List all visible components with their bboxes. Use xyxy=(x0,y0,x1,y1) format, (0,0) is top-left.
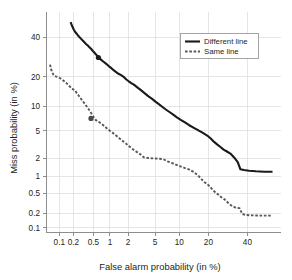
x-axis-title: False alarm probability (in %) xyxy=(99,261,220,272)
y-tick-label: 0.5 xyxy=(29,189,41,198)
x-tick-label: 0.5 xyxy=(88,238,100,247)
x-tick-label: 20 xyxy=(204,238,214,247)
legend-label: Different line xyxy=(204,37,248,46)
det-curve-figure: 0.10.20.5125102040 0.10.20.5125102040 Di… xyxy=(0,0,292,280)
x-tick-label: 0.1 xyxy=(54,238,66,247)
y-tick-label: 20 xyxy=(31,73,41,82)
chart-canvas: 0.10.20.5125102040 0.10.20.5125102040 Di… xyxy=(0,0,292,280)
x-tick-label: 0.2 xyxy=(68,238,80,247)
y-tick-label: 10 xyxy=(31,102,41,111)
chart-legend: Different lineSame line xyxy=(180,33,258,58)
series-marker-dot xyxy=(96,55,101,60)
y-tick-label: 40 xyxy=(31,33,41,42)
series-marker-dot xyxy=(88,116,93,121)
y-tick-label: 0.1 xyxy=(29,224,41,233)
x-tick-label: 2 xyxy=(126,238,131,247)
y-tick-label: 2 xyxy=(35,154,40,163)
legend-label: Same line xyxy=(204,47,239,56)
y-tick-label: 5 xyxy=(35,127,40,136)
x-tick-label: 5 xyxy=(153,238,158,247)
y-tick-label: 0.2 xyxy=(29,209,41,218)
y-tick-label: 1 xyxy=(35,172,40,181)
x-tick-label: 1 xyxy=(108,238,113,247)
x-tick-label: 40 xyxy=(243,238,253,247)
y-axis-title: Miss probability (in %) xyxy=(8,82,19,174)
x-tick-label: 10 xyxy=(175,238,185,247)
